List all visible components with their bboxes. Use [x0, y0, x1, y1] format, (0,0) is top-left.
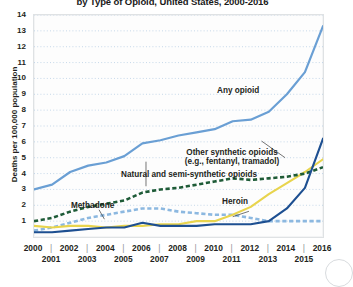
chart-title: by Type of Opioid, United States, 2000-2… [0, 0, 345, 7]
x-tick-separator: | [158, 243, 160, 253]
page-corner-artifact [325, 259, 353, 287]
x-tick-separator: | [194, 243, 196, 253]
series-line-other-synthetic-opioids [34, 139, 323, 233]
y-tick-13: 13 [17, 25, 26, 34]
x-tick-2007: 2007 [150, 254, 169, 264]
x-tick-separator: | [231, 243, 233, 253]
x-tick-separator: | [122, 243, 124, 253]
x-tick-separator: | [86, 243, 88, 253]
x-tick-2003: 2003 [78, 254, 97, 264]
y-tick-5: 5 [22, 152, 26, 161]
x-tick-2005: 2005 [114, 254, 133, 264]
annotation-methadone: Methadone [71, 201, 114, 211]
y-tick-2: 2 [22, 200, 26, 209]
x-tick-2011: 2011 [223, 254, 241, 264]
x-tick-2010: 2010 [204, 243, 223, 253]
y-tick-7: 7 [22, 121, 26, 130]
x-tick-2006: 2006 [132, 243, 151, 253]
x-tick-2000: 2000 [24, 243, 43, 253]
annotation-heroin: Heroin [222, 197, 248, 207]
x-tick-2014: 2014 [277, 243, 296, 253]
y-tick-1: 1 [22, 216, 26, 225]
x-tick-separator: | [303, 243, 305, 253]
y-tick-4: 4 [22, 168, 26, 177]
annotation-any-opioid: Any opioid [217, 86, 259, 96]
y-tick-8: 8 [22, 105, 26, 114]
x-axis-tick-labels: 2000200220042006200820102012201420162001… [0, 243, 345, 273]
x-tick-2002: 2002 [60, 243, 79, 253]
x-tick-2008: 2008 [168, 243, 187, 253]
y-tick-10: 10 [17, 73, 26, 82]
y-tick-6: 6 [22, 136, 26, 145]
annotation-other-synthetic-opioids-line2: (e.g., fentanyl, tramadol) [185, 157, 280, 167]
x-tick-2013: 2013 [258, 254, 277, 264]
x-tick-2012: 2012 [240, 243, 259, 253]
x-tick-2001: 2001 [42, 254, 61, 264]
y-tick-14: 14 [17, 10, 26, 19]
y-tick-3: 3 [22, 184, 26, 193]
x-tick-2015: 2015 [295, 254, 314, 264]
y-tick-9: 9 [22, 89, 26, 98]
y-tick-12: 12 [17, 41, 26, 50]
x-tick-separator: | [50, 243, 52, 253]
y-tick-11: 11 [18, 57, 26, 66]
x-tick-2009: 2009 [186, 254, 205, 264]
x-tick-2016: 2016 [313, 243, 332, 253]
x-tick-2004: 2004 [96, 243, 115, 253]
annotation-natural-semi-synthetic-opioids: Natural and semi-synthetic opioids [121, 170, 257, 180]
series-line-methadone [34, 208, 323, 230]
x-tick-separator: | [267, 243, 269, 253]
y-axis-tick-labels: 1234567891011121314 [0, 0, 30, 250]
